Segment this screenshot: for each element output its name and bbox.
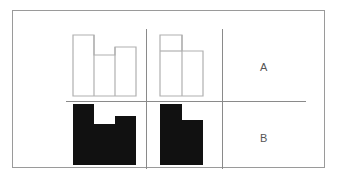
- castle-filled-path: [73, 104, 136, 165]
- figure-root: A B: [0, 0, 337, 179]
- column-divider-2: [222, 29, 223, 169]
- castle-filled-svg: [72, 103, 138, 166]
- figure-outer-frame: A B: [12, 10, 325, 168]
- row-label-b: B: [260, 133, 268, 144]
- row-label-a: A: [260, 62, 268, 73]
- castle-filled-shape: [72, 103, 138, 166]
- castle-outline-path: [73, 35, 136, 96]
- row-divider: [66, 101, 306, 102]
- flag-filled-shape: [159, 103, 205, 166]
- castle-outline-svg: [72, 34, 138, 97]
- castle-outline-shape: [72, 34, 138, 97]
- flag-filled-path: [160, 104, 203, 165]
- column-divider-1: [146, 29, 147, 169]
- flag-outline-svg: [159, 34, 205, 97]
- flag-filled-svg: [159, 103, 205, 166]
- flag-outline-shape: [159, 34, 205, 97]
